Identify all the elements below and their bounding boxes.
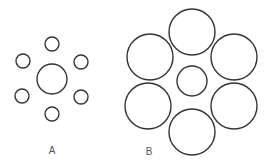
center-circle: [177, 66, 207, 96]
surround-circle: [74, 55, 88, 69]
surround-circle: [45, 37, 59, 51]
surround-circle: [211, 83, 257, 129]
panel-b-label: B: [146, 146, 153, 157]
panel-a-circles: [15, 37, 88, 121]
panel-b: B: [125, 9, 257, 157]
surround-circle: [169, 109, 215, 155]
illusion-diagram: A B: [0, 0, 269, 166]
surround-circle: [127, 34, 173, 80]
surround-circle: [74, 90, 88, 104]
panel-b-circles: [125, 9, 257, 155]
surround-circle: [15, 89, 29, 103]
panel-a: A: [15, 37, 88, 156]
panel-a-label: A: [49, 145, 56, 156]
surround-circle: [16, 54, 30, 68]
surround-circle: [169, 9, 215, 55]
surround-circle: [211, 34, 257, 80]
surround-circle: [125, 83, 171, 129]
surround-circle: [45, 107, 59, 121]
center-circle: [37, 64, 67, 94]
